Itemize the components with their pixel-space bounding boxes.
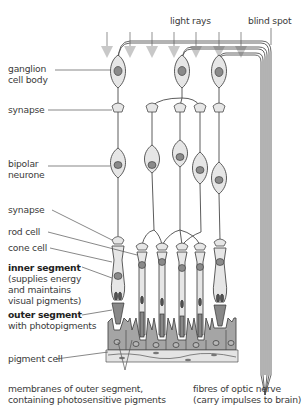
label-line: ganglion — [8, 63, 48, 74]
inner-segment-label: inner segment (supplies energy and maint… — [8, 262, 81, 306]
label-line: bipolar — [8, 158, 45, 169]
label-line: (carry impulses to brain) — [193, 394, 301, 405]
ganglion-nuclei — [114, 67, 223, 77]
label-title: outer segment — [8, 309, 96, 320]
label-line: membranes of outer segment, — [8, 383, 166, 394]
inner-segment-mitochondria — [114, 292, 223, 308]
label-line: neurone — [8, 169, 45, 180]
light-rays-label: light rays — [170, 15, 211, 26]
label-line: visual pigments) — [8, 295, 81, 306]
photoreceptor-nuclei — [114, 259, 224, 280]
retina-diagram — [0, 0, 305, 407]
bottom-synapses — [112, 237, 226, 251]
top-synapses — [112, 103, 225, 112]
cone-cell-label: cone cell — [8, 242, 47, 253]
rod-cell-label: rod cell — [8, 226, 40, 237]
bipolar-neurone-label: bipolar neurone — [8, 158, 45, 180]
blind-spot-label: blind spot — [248, 15, 291, 26]
synapse-top-label: synapse — [8, 104, 45, 115]
cone-cells — [111, 246, 226, 302]
membranes-label: membranes of outer segment, containing p… — [8, 383, 166, 405]
ganglion-cells — [111, 55, 227, 88]
label-title: inner segment — [8, 262, 81, 273]
label-line: cell body — [8, 74, 48, 85]
label-line: (supplies energy — [8, 273, 81, 284]
optic-nerve-fibres-label: fibres of optic nerve (carry impulses to… — [193, 383, 301, 405]
ganglion-cell-body-label: ganglion cell body — [8, 63, 48, 85]
outer-segment-label: outer segment with photopigments — [8, 309, 96, 331]
ganglion-dendrites — [118, 88, 219, 106]
label-line: containing photosensitive pigments — [8, 394, 166, 405]
pigment-cell-label: pigment cell — [8, 353, 63, 364]
label-line: and maintains — [8, 284, 81, 295]
label-line: with photopigments — [8, 320, 96, 331]
synapse-bottom-label: synapse — [8, 204, 45, 215]
bipolar-neurones — [111, 112, 227, 194]
choroid-layer — [106, 350, 238, 362]
label-line: fibres of optic nerve — [193, 383, 301, 394]
